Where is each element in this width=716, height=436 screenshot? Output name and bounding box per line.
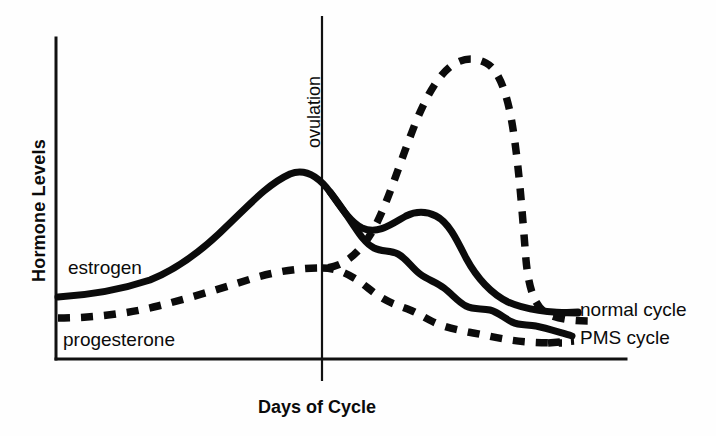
legend-label-pms-cycle: PMS cycle [580,328,670,347]
y-axis-label: Hormone Levels [30,139,48,282]
curve-estrogen-pms [330,192,572,336]
hormone-cycle-chart: Hormone Levels ovulation Days of Cycle e… [0,0,716,436]
estrogen-curve-label: estrogen [68,258,142,277]
ovulation-label: ovulation [305,76,323,148]
legend-swatch-normal-cycle [556,312,578,313]
curve-estrogen-normal [58,172,578,313]
x-axis-label: Days of Cycle [258,398,376,416]
legend-label-normal-cycle: normal cycle [580,300,687,319]
progesterone-curve-label: progesterone [63,330,175,349]
chart-canvas [0,0,716,436]
